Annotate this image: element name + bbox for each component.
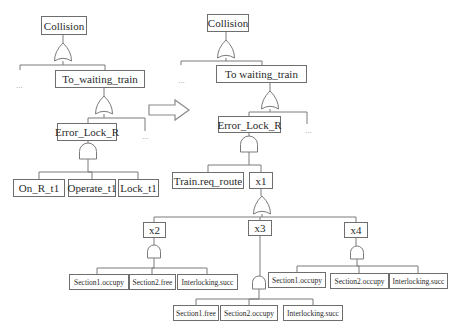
event-label: Train.req_route	[174, 175, 242, 187]
event-node-l-error-lock: Error_Lock_R	[57, 123, 117, 141]
event-node-r-error-lock: Error_Lock_R	[218, 116, 281, 133]
event-node-r-collision: Collision	[207, 14, 249, 32]
event-label: Section2.occupy	[224, 309, 274, 318]
event-node-l-lock: Lock_t1	[118, 179, 159, 197]
event-node-l-to-waiting: To_waiting_train	[55, 70, 145, 88]
event-label: x2	[149, 224, 160, 236]
ellipsis-marker: ...	[142, 131, 149, 141]
event-node-x4-s1: Section1.occupy	[268, 272, 326, 288]
and-gate-icon	[148, 245, 161, 258]
event-label: To waiting_train	[225, 68, 298, 80]
event-label: Interlocking.succ	[287, 309, 339, 318]
event-label: Operate_t1	[68, 182, 117, 194]
event-node-x4-s2: Section2.occupy	[330, 273, 389, 289]
event-label: Error_Lock_R	[217, 119, 281, 131]
or-gate-icon	[262, 91, 279, 109]
event-node-r-x1: x1	[249, 172, 273, 189]
event-node-x2-s1: Section1.occupy	[69, 274, 129, 290]
event-label: Interlocking.succ	[393, 277, 445, 286]
event-label: Section1.free	[176, 309, 216, 318]
event-node-x3-il: Interlocking.succ	[283, 305, 343, 321]
event-node-l-on-r: On_R_t1	[13, 179, 65, 197]
event-label: Section2.free	[133, 278, 173, 287]
event-label: On_R_t1	[19, 182, 59, 194]
event-label: Section1.occupy	[74, 278, 124, 287]
event-label: To_waiting_train	[62, 73, 138, 85]
event-label: Section2.occupy	[335, 277, 385, 286]
or-gate-icon	[254, 196, 271, 214]
event-label: Collision	[44, 20, 84, 32]
event-node-r-x2: x2	[143, 222, 166, 238]
event-node-x2-s2: Section2.free	[129, 274, 176, 290]
event-node-r-to-waiting: To waiting_train	[216, 65, 307, 83]
and-gate-icon	[80, 143, 97, 159]
event-label: Interlocking.succ	[182, 278, 234, 287]
and-gate-icon	[351, 246, 364, 259]
event-node-x3-s1: Section1.free	[173, 305, 219, 321]
event-label: x3	[255, 222, 266, 234]
event-label: Section1.occupy	[272, 276, 322, 285]
or-gate-icon	[218, 40, 235, 58]
event-node-x3-s2: Section2.occupy	[220, 305, 278, 321]
and-gate-icon	[253, 276, 266, 289]
ellipsis-marker: ...	[16, 80, 23, 90]
or-gate-icon	[96, 96, 113, 114]
event-node-l-collision: Collision	[41, 16, 87, 35]
event-label: x4	[351, 224, 362, 236]
event-label: x1	[256, 175, 267, 187]
event-label: Lock_t1	[120, 182, 157, 194]
event-label: Collision	[208, 17, 248, 29]
ellipsis-marker: ...	[305, 125, 312, 135]
event-node-r-x3: x3	[248, 220, 272, 236]
transform-arrow-icon	[149, 100, 189, 120]
event-label: Error_Lock_R	[55, 126, 119, 138]
ellipsis-marker: ...	[178, 75, 185, 85]
event-node-l-operate: Operate_t1	[68, 179, 116, 197]
event-node-x4-il: Interlocking.succ	[389, 273, 448, 289]
and-gate-icon	[241, 136, 258, 152]
or-gate-icon	[55, 43, 72, 61]
event-node-x2-il: Interlocking.succ	[177, 274, 238, 290]
event-node-r-x4: x4	[344, 222, 368, 238]
event-node-r-train-req: Train.req_route	[172, 172, 244, 189]
